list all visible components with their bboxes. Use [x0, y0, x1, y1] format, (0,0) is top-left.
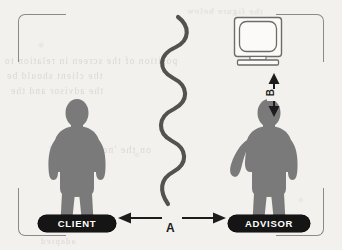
client-name-badge: CLIENT: [38, 215, 116, 233]
client-figure: [36, 98, 118, 230]
measurement-label-b: B: [265, 85, 276, 101]
crt-monitor-icon: [231, 16, 287, 76]
person-silhouette-icon: [36, 98, 118, 230]
ghost-text-line: the client should be: [6, 71, 102, 81]
measurement-label-a: A: [166, 221, 175, 235]
ghost-text-line: adapted: [40, 236, 76, 246]
wavy-line-icon: [143, 14, 199, 214]
advisor-name-badge: ADVISOR: [228, 215, 310, 233]
diagram-canvas: the figure below position of the screen …: [0, 0, 342, 250]
corner-bracket-top-left: [18, 14, 66, 62]
ghost-text-line: the advisor and the: [10, 86, 103, 96]
